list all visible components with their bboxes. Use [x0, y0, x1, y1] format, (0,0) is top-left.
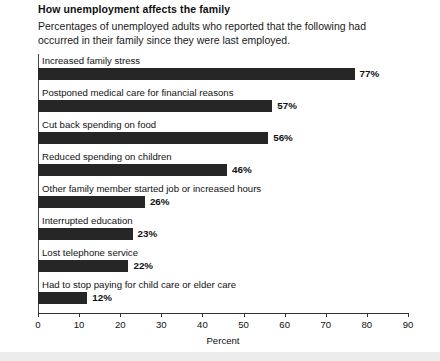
bar-row: Postponed medical care for financial rea… — [38, 86, 408, 118]
bar-row: Lost telephone service22% — [38, 246, 408, 278]
x-axis-tick-label: 30 — [149, 319, 173, 331]
bar-track: 12% — [38, 292, 408, 304]
bar — [38, 132, 268, 144]
bar — [38, 164, 227, 176]
x-axis-tick — [367, 313, 368, 317]
bar-category-label: Lost telephone service — [42, 246, 138, 259]
bar — [38, 228, 133, 240]
bar-category-label: Had to stop paying for child care or eld… — [42, 278, 236, 291]
bar-value-label: 77% — [360, 67, 380, 81]
value-axis-line — [38, 313, 408, 314]
x-axis-tick-label: 20 — [108, 319, 132, 331]
x-axis-tick-label: 10 — [67, 319, 91, 331]
x-axis-tick — [38, 313, 39, 317]
bar-row: Interrupted education23% — [38, 214, 408, 246]
x-axis-tick — [120, 313, 121, 317]
bar — [38, 196, 145, 208]
x-axis-tick — [326, 313, 327, 317]
bar-value-label: 56% — [273, 131, 293, 145]
x-axis-tick-label: 50 — [232, 319, 256, 331]
x-axis-tick-label: 90 — [396, 319, 420, 331]
x-axis-tick-label: 60 — [273, 319, 297, 331]
x-axis-tick — [408, 313, 409, 317]
x-axis-tick-label: 40 — [190, 319, 214, 331]
bar-track: 56% — [38, 132, 408, 144]
x-axis-tick — [244, 313, 245, 317]
x-axis-tick-label: 0 — [26, 319, 50, 331]
bar-value-label: 12% — [92, 291, 112, 305]
bar-row: Other family member started job or incre… — [38, 182, 408, 214]
bar-category-label: Reduced spending on children — [42, 150, 172, 163]
x-axis-title: Percent — [38, 335, 408, 346]
plot-area: Increased family stress77%Postponed medi… — [38, 54, 408, 313]
bar-category-label: Cut back spending on food — [42, 118, 156, 131]
bar-track: 26% — [38, 196, 408, 208]
bar — [38, 68, 355, 80]
bar-value-label: 57% — [277, 99, 297, 113]
bar-track: 57% — [38, 100, 408, 112]
bar-category-label: Increased family stress — [42, 54, 140, 67]
bar-value-label: 26% — [150, 195, 170, 209]
bar-track: 46% — [38, 164, 408, 176]
chart-subtitle: Percentages of unemployed adults who rep… — [38, 20, 388, 47]
x-axis-tick — [79, 313, 80, 317]
x-axis-tick — [285, 313, 286, 317]
chart-heading: How unemployment affects the family Perc… — [38, 3, 408, 47]
bar-track: 22% — [38, 260, 408, 272]
bar-category-label: Postponed medical care for financial rea… — [42, 86, 233, 99]
bar-row: Cut back spending on food56% — [38, 118, 408, 150]
bar-category-label: Other family member started job or incre… — [42, 182, 261, 195]
bar — [38, 260, 128, 272]
bar-row: Reduced spending on children46% — [38, 150, 408, 182]
page-edge-band — [0, 352, 440, 361]
bar-track: 23% — [38, 228, 408, 240]
chart-title: How unemployment affects the family — [38, 3, 408, 16]
x-axis-tick — [161, 313, 162, 317]
bar — [38, 100, 272, 112]
bar — [38, 292, 87, 304]
x-axis-tick-label: 80 — [355, 319, 379, 331]
bar-value-label: 22% — [133, 259, 153, 273]
bar-category-label: Interrupted education — [42, 214, 133, 227]
x-axis-tick-label: 70 — [314, 319, 338, 331]
x-axis-tick — [202, 313, 203, 317]
bar-track: 77% — [38, 68, 408, 80]
bar-value-label: 46% — [232, 163, 252, 177]
chart-figure: How unemployment affects the family Perc… — [0, 0, 440, 361]
bar-value-label: 23% — [138, 227, 158, 241]
bar-row: Increased family stress77% — [38, 54, 408, 86]
bar-row: Had to stop paying for child care or eld… — [38, 278, 408, 310]
